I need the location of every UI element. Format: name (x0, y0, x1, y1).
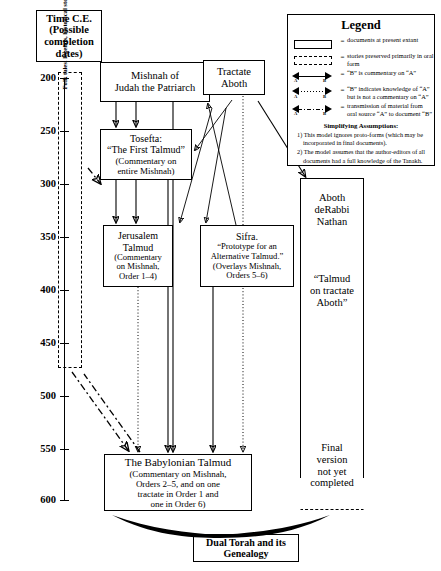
arn-status-line-3: not yet (318, 466, 347, 478)
legend-text-4: transmission of material from oral sourc… (347, 102, 434, 118)
box-jerusalem-talmud[interactable]: Jerusalem Talmud (Commentary on Mishnah,… (103, 225, 173, 287)
arn-title-line-1: Aboth (319, 192, 345, 204)
legend-equals-0: = (338, 36, 347, 47)
legend-assumption-1: 1) This model ignores proto-forms (which… (293, 131, 429, 147)
babylonian-talmud-line-4: tractate in Order 1 and (138, 489, 219, 499)
legend-entry-knowledge: A B = “B” indicates knowledge of “A” but… (292, 85, 434, 101)
legend-entry-transmission: A B = transmission of material from oral… (292, 102, 434, 118)
box-babylonian-talmud[interactable]: The Babylonian Talmud (Commentary on Mis… (104, 454, 252, 511)
tractate-aboth-line-1: Tractate (217, 66, 251, 78)
babylonian-talmud-line-1: The Babylonian Talmud (125, 456, 232, 468)
arrow-oral-to-tosefta (88, 168, 100, 183)
solid-rectangle-icon (292, 36, 338, 50)
arn-title-line-3: Nathan (317, 216, 347, 228)
legend-equals-3: = (338, 85, 347, 96)
arrow-oral-source-tail (84, 374, 140, 452)
legend-arrow-from-4: A (294, 111, 297, 116)
legend-text-3: “B” indicates knowledge of “A” but is no… (347, 85, 434, 101)
babylonian-talmud-line-3: Orders 2–5, and on one (136, 479, 220, 489)
tosefta-line-4: entire Mishnah) (117, 166, 174, 176)
box-tosefta[interactable]: Tosefta: “The First Talmud” (Commentary … (100, 129, 192, 180)
arn-bottom-dashed-edge (300, 478, 364, 510)
tosefta-line-2: “The First Talmud” (107, 144, 185, 155)
arn-subtitle-line-1: “Talmud (314, 273, 351, 285)
tractate-aboth-line-2: Aboth (221, 78, 247, 90)
tosefta-line-3: (Commentary on (115, 156, 176, 166)
legend-arrow-to-4: B (323, 111, 326, 116)
legend-equals-1: = (338, 52, 347, 63)
dashed-rectangle-icon (292, 52, 338, 66)
bottom-brace-ornament (110, 513, 332, 539)
legend-text-0: documents at present extant (347, 36, 434, 44)
legend-arrow-from-2: A (294, 78, 297, 83)
legend-arrow-from-3: A (294, 94, 297, 99)
sifra-line-5: Orders 5–6) (226, 271, 267, 281)
box-mishnah-of-judah-the-patriarch[interactable]: Mishnah of Judah the Patriarch (100, 62, 210, 102)
arn-subtitle-line-3: Aboth” (317, 297, 348, 309)
diagram-canvas: Time C.E. (Possible completion dates) 20… (0, 0, 441, 571)
time-axis-title-box: Time C.E. (Possible completion dates) (36, 10, 102, 62)
jerusalem-talmud-line-5: Order 1–4) (119, 272, 157, 282)
arrow-mishnah-to-tosefta-diagonal (195, 100, 232, 150)
arrow-tractate-aboth-to-sifra (206, 108, 226, 222)
box-tractate-aboth[interactable]: Tractate Aboth (203, 60, 265, 95)
legend-assumption-2: 2) The model assumes that the author-edi… (293, 148, 429, 164)
arn-status-line-1: Final (321, 442, 343, 454)
legend-arrow-to-2: B (323, 78, 326, 83)
arrow-oral-to-babylonian-talmud (72, 372, 128, 450)
legend-panel: Legend = documents at present extant = s… (287, 14, 435, 166)
legend-equals-2: = (338, 69, 347, 80)
oral-tradition-box (58, 72, 82, 368)
legend-assumptions-heading: Simplifying Assumptions: (288, 122, 434, 129)
legend-entry-commentary: A B = “B” is commentary on “A” (292, 69, 434, 83)
legend-title: Legend (288, 18, 434, 33)
dashdot-arrow-icon: A B (292, 102, 338, 116)
legend-text-1: stories preserved primarily in oral form (347, 52, 434, 68)
time-title-line-4: dates) (56, 48, 83, 60)
time-title-line-2: (Possible (49, 24, 89, 36)
time-title-line-1: Time C.E. (46, 13, 92, 25)
legend-entry-extant: = documents at present extant (292, 36, 434, 50)
arn-status-line-2: version (317, 454, 348, 466)
mishnah-line-2: Judah the Patriarch (115, 82, 195, 94)
babylonian-talmud-line-5: one in Order 6) (150, 499, 205, 509)
aboth-derabbi-nathan-content: Aboth deRabbi Nathan “Talmud on tractate… (300, 178, 364, 390)
time-title-line-3: completion (44, 36, 94, 48)
diagram-title-line-2: Genealogy (224, 548, 269, 559)
dotted-arrow-icon: A B (292, 85, 338, 99)
legend-equals-4: = (338, 102, 347, 113)
legend-entry-oral: = stories preserved primarily in oral fo… (292, 52, 434, 68)
arn-subtitle-line-2: on tractate (310, 285, 354, 297)
tosefta-line-1: Tosefta: (130, 133, 162, 144)
arn-title-line-2: deRabbi (315, 204, 350, 216)
mishnah-line-1: Mishnah of (131, 70, 179, 82)
box-sifra[interactable]: Sifra. “Prototype for an Alternative Tal… (200, 225, 294, 287)
arrow-sifra-to-tractate-aboth-cluster (208, 104, 236, 225)
solid-arrow-icon: A B (292, 69, 338, 83)
legend-arrow-to-3: B (323, 94, 326, 99)
legend-text-2: “B” is commentary on “A” (347, 69, 434, 77)
jerusalem-talmud-line-1: Jerusalem (118, 230, 158, 241)
babylonian-talmud-line-2: (Commentary on Mishnah, (129, 469, 226, 479)
